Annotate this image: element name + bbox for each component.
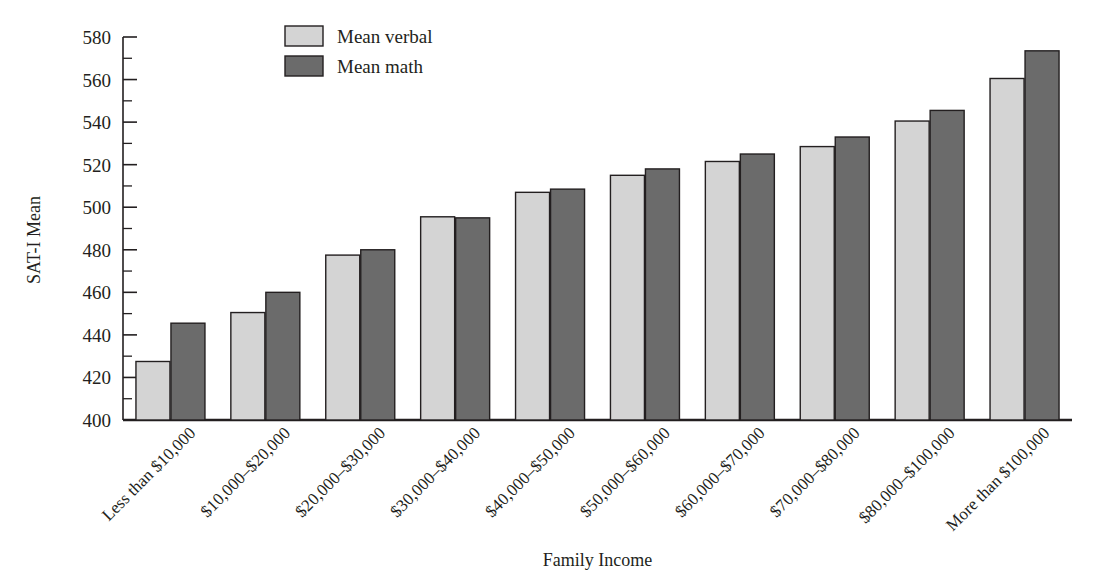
y-tick-label: 520 [83,155,112,176]
bar-verbal [326,255,360,420]
bar-math [551,189,585,420]
legend-label-verbal: Mean verbal [337,26,432,47]
x-category-label: $60,000–$70,000 [671,423,769,521]
legend-label-math: Mean math [337,56,424,77]
x-category-label: $10,000–$20,000 [197,423,295,521]
bar-math [361,250,395,420]
legend-swatch-verbal [285,26,323,46]
y-tick-label: 560 [83,70,112,91]
y-tick-label: 400 [83,410,112,431]
x-category-label: $50,000–$60,000 [576,423,674,521]
bar-math [645,169,679,420]
bar-verbal [990,78,1024,420]
bar-math [1025,51,1059,420]
y-tick-label: 440 [83,325,112,346]
y-tick-label: 500 [83,197,112,218]
sat-income-bar-chart: 400420440460480500520540560580Less than … [0,0,1111,581]
y-tick-label: 540 [83,112,112,133]
y-tick-label: 460 [83,282,112,303]
x-axis-title: Family Income [543,550,652,570]
bar-verbal [136,361,170,420]
bar-math [456,218,490,420]
y-tick-label: 480 [83,240,112,261]
y-tick-label: 580 [83,27,112,48]
x-category-label: $20,000–$30,000 [291,423,389,521]
bar-verbal [705,161,739,420]
x-category-label: $30,000–$40,000 [386,423,484,521]
x-category-label: $70,000–$80,000 [766,423,864,521]
bar-verbal [421,217,455,420]
bar-verbal [231,313,265,420]
bar-verbal [516,192,550,420]
y-tick-label: 420 [83,367,112,388]
chart-canvas: 400420440460480500520540560580Less than … [0,0,1111,581]
bar-math [835,137,869,420]
x-category-label: $40,000–$50,000 [481,423,579,521]
bar-verbal [610,175,644,420]
bar-math [171,323,205,420]
x-category-label: $80,000–$100,000 [855,423,959,527]
y-axis-title: SAT-I Mean [24,196,44,284]
bar-math [740,154,774,420]
bar-math [266,292,300,420]
legend-swatch-math [285,56,323,76]
x-category-label: Less than $10,000 [98,423,199,524]
bar-verbal [800,147,834,420]
bar-verbal [895,121,929,420]
x-category-label: More than $100,000 [942,423,1053,534]
bar-math [930,110,964,420]
